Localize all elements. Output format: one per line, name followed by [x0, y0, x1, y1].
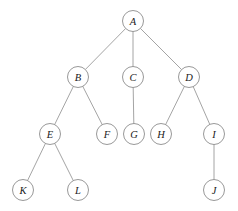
tree-node-k[interactable]: K — [13, 180, 34, 201]
edge-layer — [28, 28, 214, 180]
tree-diagram: ABCDEFGHIKLJ — [0, 0, 238, 211]
tree-node-f[interactable]: F — [97, 124, 118, 145]
tree-node-a[interactable]: A — [123, 11, 144, 32]
node-label-h: H — [156, 129, 166, 140]
node-label-i: I — [211, 129, 216, 140]
tree-edge-d-h — [166, 86, 185, 124]
tree-node-c[interactable]: C — [123, 67, 144, 88]
tree-node-j[interactable]: J — [204, 180, 225, 201]
tree-edge-e-k — [28, 143, 46, 180]
tree-edge-e-l — [55, 143, 74, 180]
tree-edge-b-e — [55, 86, 74, 124]
tree-node-g[interactable]: G — [124, 124, 145, 145]
node-label-k: K — [18, 185, 27, 196]
tree-node-d[interactable]: D — [179, 67, 200, 88]
node-label-f: F — [103, 129, 111, 140]
node-label-b: B — [75, 72, 82, 83]
tree-edge-d-i — [193, 87, 210, 125]
node-label-a: A — [129, 16, 137, 27]
tree-edge-b-f — [83, 86, 102, 124]
tree-node-i[interactable]: I — [204, 124, 225, 145]
tree-edge-a-d — [140, 28, 181, 69]
tree-node-h[interactable]: H — [151, 124, 172, 145]
node-label-c: C — [129, 72, 137, 83]
node-label-e: E — [46, 129, 54, 140]
tree-node-l[interactable]: L — [68, 180, 89, 201]
node-layer: ABCDEFGHIKLJ — [13, 11, 225, 201]
tree-diagram-canvas: ABCDEFGHIKLJ — [0, 0, 238, 211]
node-label-g: G — [130, 129, 138, 140]
tree-node-e[interactable]: E — [40, 124, 61, 145]
tree-edge-a-b — [85, 28, 125, 69]
node-label-l: L — [74, 185, 81, 196]
node-label-d: D — [184, 72, 193, 83]
tree-node-b[interactable]: B — [68, 67, 89, 88]
tree-edge-c-g — [133, 88, 134, 124]
